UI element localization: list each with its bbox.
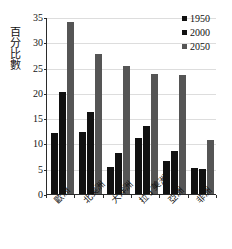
bar-chart: 百分比數 05101520253035 歐洲北美洲大洋洲拉丁美洲亞洲非洲 195… — [0, 0, 232, 249]
bar — [87, 112, 94, 194]
bar-group — [48, 18, 76, 194]
y-tick-label: 15 — [23, 114, 43, 124]
legend-swatch-icon — [182, 44, 187, 49]
y-tick-label: 35 — [23, 13, 43, 23]
legend-swatch-icon — [182, 30, 187, 35]
y-tick-label: 10 — [23, 139, 43, 149]
y-tick-label: 25 — [23, 64, 43, 74]
bar — [107, 167, 114, 194]
y-tick-label: 5 — [23, 165, 43, 175]
bar — [123, 66, 130, 194]
bar — [67, 22, 74, 194]
legend-label: 2050 — [190, 42, 210, 52]
legend: 195020002050 — [182, 13, 210, 52]
y-tick-mark — [44, 144, 47, 145]
y-tick-label: 30 — [23, 38, 43, 48]
legend-item: 2050 — [182, 41, 210, 52]
y-tick-mark — [44, 43, 47, 44]
y-tick-label: 0 — [23, 190, 43, 200]
legend-item: 2000 — [182, 27, 210, 38]
legend-item: 1950 — [182, 13, 210, 24]
bar — [59, 92, 66, 194]
bar — [143, 126, 150, 194]
bar — [95, 54, 102, 194]
bar — [191, 168, 198, 194]
y-tick-mark — [44, 18, 47, 19]
y-tick-mark — [44, 69, 47, 70]
x-axis-labels: 歐洲北美洲大洋洲拉丁美洲亞洲非洲 — [46, 198, 221, 248]
legend-label: 2000 — [190, 28, 210, 38]
bar — [79, 132, 86, 194]
bar — [151, 74, 158, 194]
legend-swatch-icon — [182, 16, 187, 21]
bar-group — [76, 18, 104, 194]
bar-group — [104, 18, 132, 194]
y-tick-mark — [44, 119, 47, 120]
y-tick-mark — [44, 94, 47, 95]
legend-label: 1950 — [190, 14, 210, 24]
y-tick-mark — [44, 170, 47, 171]
bar — [51, 133, 58, 194]
bar — [179, 75, 186, 194]
y-axis-title: 百分比數 — [5, 26, 20, 70]
y-tick-label: 20 — [23, 89, 43, 99]
bar-group — [132, 18, 160, 194]
